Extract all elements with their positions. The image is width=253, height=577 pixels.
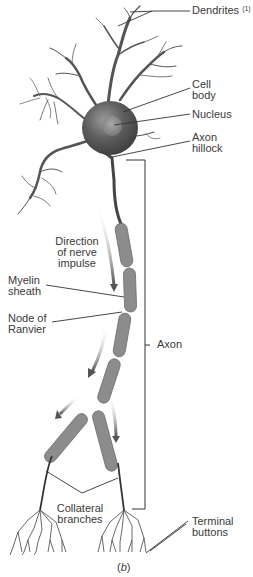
label-collateral-branches: Collateral branches	[52, 503, 108, 525]
label-collateral-line2: branches	[52, 514, 108, 525]
label-axon-hillock-line2: hillock	[192, 143, 223, 154]
label-direction-line3: impulse	[52, 258, 102, 269]
label-direction-of-impulse: Direction of nerve impulse	[52, 236, 102, 269]
caption-close-paren: )	[127, 561, 131, 573]
label-myelin-line2: sheath	[8, 286, 41, 297]
nucleus	[102, 116, 122, 136]
label-myelin-sheath: Myelin sheath	[8, 275, 41, 297]
neuron-diagram: Dendrites (1) Cell body Nucleus Axon hil…	[0, 0, 253, 577]
label-axon-hillock: Axon hillock	[192, 132, 223, 154]
label-node-line2: Ranvier	[8, 324, 47, 335]
figure-caption: (b)	[117, 562, 130, 573]
label-axon: Axon	[157, 339, 182, 350]
label-dendrites-text: Dendrites	[192, 4, 239, 16]
axon-hillock	[104, 152, 122, 226]
label-cell-body: Cell body	[192, 79, 216, 101]
label-cell-body-line2: body	[192, 90, 216, 101]
label-terminal-buttons: Terminal buttons	[192, 516, 234, 538]
label-dendrites: Dendrites (1)	[192, 5, 251, 16]
axon-bracket	[126, 160, 145, 509]
footnote-marker: (1)	[242, 5, 251, 12]
label-nucleus: Nucleus	[192, 109, 232, 120]
label-node-of-ranvier: Node of Ranvier	[8, 313, 47, 335]
label-terminal-line2: buttons	[192, 527, 234, 538]
leader-lines	[46, 11, 190, 553]
